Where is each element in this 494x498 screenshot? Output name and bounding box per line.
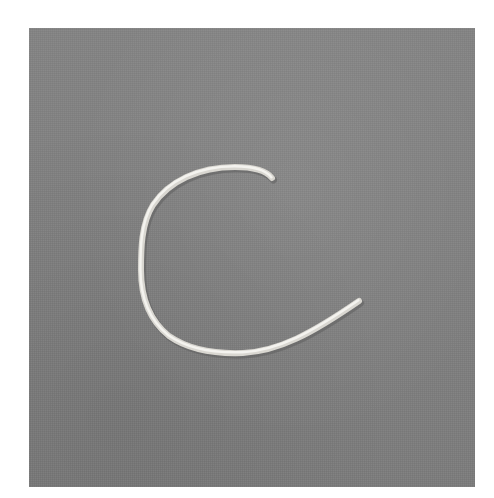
cord-letter-c: [29, 28, 475, 487]
photograph: [29, 28, 475, 487]
image-frame: C: [0, 0, 494, 498]
